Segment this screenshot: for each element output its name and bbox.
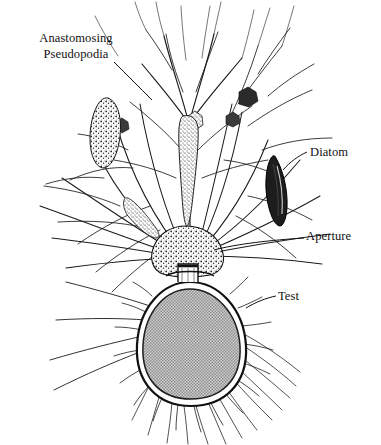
test-lower-left-pseudopodia	[50, 282, 150, 390]
label-anastomosing-pseudopodia: Anastomosing Pseudopodia	[12, 30, 140, 62]
test-shell	[50, 264, 300, 444]
food-mass-central	[179, 116, 198, 227]
food-mass-lower-left	[124, 198, 160, 238]
organism-illustration	[0, 0, 381, 445]
label-test: Test	[278, 288, 299, 304]
label-line-2: Pseudopodia	[44, 47, 109, 61]
food-mass-left	[90, 98, 121, 168]
figure-plate: Anastomosing Pseudopodia Diatom Aperture…	[0, 0, 381, 445]
leader-pseudopodia	[114, 62, 152, 100]
label-diatom: Diatom	[310, 144, 348, 160]
diatom	[266, 156, 287, 226]
label-line-1: Anastomosing	[39, 31, 112, 45]
label-aperture: Aperture	[306, 228, 351, 244]
leader-diatom	[283, 152, 307, 170]
